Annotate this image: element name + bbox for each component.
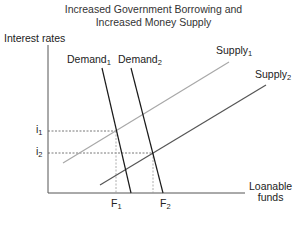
demand1-label: Demand1 <box>67 53 111 67</box>
demand2-curve <box>131 68 163 193</box>
demand2-label: Demand2 <box>118 53 162 67</box>
x-axis-label: Loanable funds <box>249 180 292 203</box>
F1-label: F1 <box>111 197 122 211</box>
demand1-curve <box>102 68 131 193</box>
i1-label: i1 <box>36 123 43 137</box>
supply2-curve <box>100 85 266 185</box>
supply1-curve <box>63 62 229 163</box>
i2-label: i2 <box>36 145 43 159</box>
F2-label: F2 <box>160 197 171 211</box>
supply1-label: Supply1 <box>216 44 252 58</box>
y-axis-label: Interest rates <box>4 32 65 44</box>
supply2-label: Supply2 <box>255 68 291 82</box>
